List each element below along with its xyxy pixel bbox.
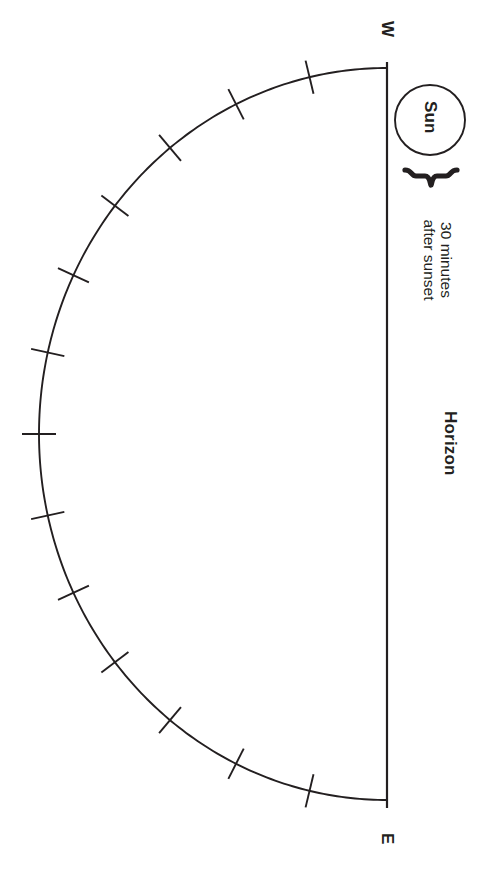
arc-tick (101, 196, 128, 217)
arc-tick (58, 268, 89, 282)
sunset-caption-line-1: 30 minutes (438, 210, 455, 310)
sunset-arc-diagram: W E Horizon Sun 30 minutes after sunset (0, 0, 478, 870)
arc-tick (101, 652, 128, 673)
diagram-geometry (22, 61, 465, 808)
sunset-caption: 30 minutes after sunset (415, 210, 455, 310)
arc-tick (228, 749, 243, 779)
cardinal-label-west: W (379, 21, 397, 41)
sun-label: Sun (420, 101, 440, 141)
arc-tick (58, 586, 89, 600)
cardinal-label-east: E (379, 833, 397, 853)
arc-tick (159, 135, 181, 161)
horizon-label: Horizon (440, 411, 460, 491)
sky-arc (39, 68, 387, 800)
diagram-canvas (0, 0, 478, 870)
brace-icon (405, 170, 457, 185)
arc-tick (228, 89, 243, 119)
arc-tick (159, 707, 181, 733)
arc-tick-group (22, 61, 314, 808)
sunset-caption-line-2: after sunset (420, 210, 437, 310)
